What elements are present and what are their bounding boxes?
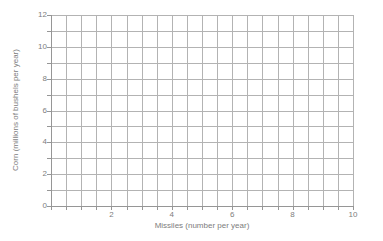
y-tick-label: 6 [25, 106, 47, 116]
x-tick-label: 6 [222, 210, 242, 220]
y-tick-label: 12 [25, 10, 47, 20]
corn-missiles-empty-chart: Corn (millions of bushels per year) Miss… [0, 0, 383, 241]
x-tick-label: 8 [283, 210, 303, 220]
y-tick-label: 2 [25, 169, 47, 179]
y-tick-label: 4 [25, 137, 47, 147]
x-tick-label: 4 [162, 210, 182, 220]
y-axis-title: Corn (millions of bushels per year) [11, 49, 21, 171]
y-tick-label: 10 [25, 42, 47, 52]
grid-plot-area [0, 0, 383, 241]
x-tick-label: 2 [101, 210, 121, 220]
y-tick-label: 8 [25, 74, 47, 84]
x-axis-title: Missiles (number per year) [51, 221, 353, 231]
y-tick-label: 0 [25, 201, 47, 211]
x-tick-label: 10 [343, 210, 363, 220]
